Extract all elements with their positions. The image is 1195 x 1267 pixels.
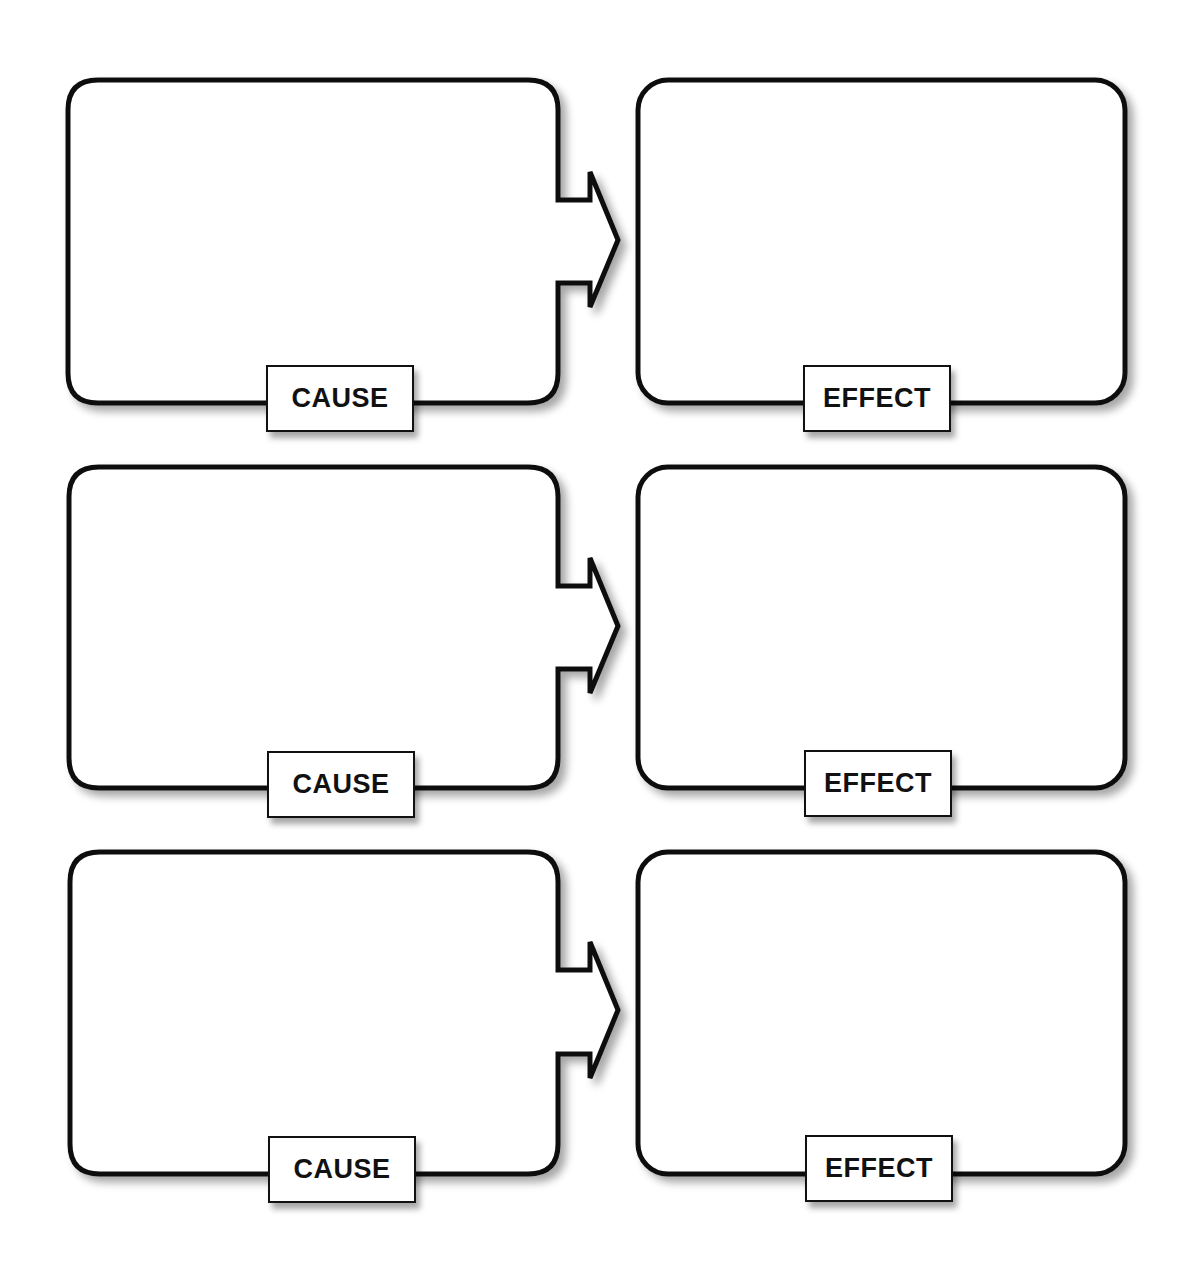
cause-label-2: CAUSE [267, 751, 415, 818]
effect-label-1: EFFECT [803, 365, 951, 432]
row-3 [70, 852, 1125, 1174]
effect-label-3: EFFECT [805, 1135, 953, 1202]
cause-box-2[interactable] [69, 467, 618, 788]
effect-box-3[interactable] [638, 852, 1125, 1174]
cause-effect-diagram [0, 0, 1195, 1267]
cause-box-1[interactable] [68, 80, 618, 403]
effect-label-2: EFFECT [804, 750, 952, 817]
cause-label-3: CAUSE [268, 1136, 416, 1203]
effect-box-2[interactable] [638, 467, 1125, 788]
row-2 [69, 467, 1125, 788]
cause-label-1: CAUSE [266, 365, 414, 432]
effect-box-1[interactable] [638, 80, 1125, 403]
row-1 [68, 80, 1125, 403]
cause-box-3[interactable] [70, 852, 618, 1174]
